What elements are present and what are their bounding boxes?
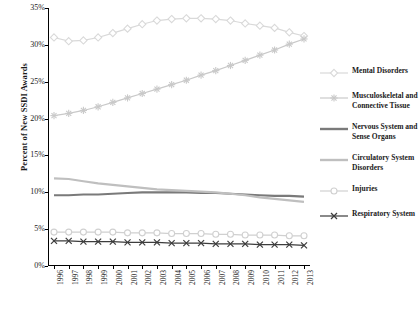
x-tick-mark <box>142 266 143 269</box>
x-tick-label: 2003 <box>160 270 168 285</box>
legend-swatch-asterisk-icon <box>320 92 348 104</box>
data-point-marker-asterisk <box>50 112 57 119</box>
data-point-marker-diamond <box>139 21 146 28</box>
legend-label: Musculoskeletal and Connective Tissue <box>352 91 420 110</box>
data-point-marker-asterisk <box>242 57 249 64</box>
x-tick-mark <box>230 266 231 269</box>
x-tick-mark <box>83 266 84 269</box>
y-tick-mark <box>45 266 48 267</box>
data-point-marker-diamond <box>109 29 116 36</box>
legend-row: Circulatory System Disorders <box>320 153 420 172</box>
legend-row: Nervous System and Sense Organs <box>320 122 420 141</box>
ssdi-awards-line-chart: Percent of New SSDI Awards 0%5%10%15%20%… <box>0 0 420 318</box>
legend-row: Mental Disorders <box>320 66 420 79</box>
x-tick-label: 2005 <box>189 270 197 285</box>
data-point-marker-circle <box>51 229 57 235</box>
data-point-marker-diamond <box>65 38 72 45</box>
data-point-marker-circle <box>125 230 131 236</box>
data-point-marker-asterisk <box>109 99 116 106</box>
y-tick-mark <box>45 119 48 120</box>
data-point-marker-asterisk <box>286 41 293 48</box>
legend-label: Mental Disorders <box>352 66 408 76</box>
legend-row: Respiratory System <box>320 209 420 222</box>
chart-legend: Mental DisordersMusculoskeletal and Conn… <box>320 66 420 234</box>
x-tick-label: 2013 <box>307 270 315 285</box>
x-tick-label: 1998 <box>86 270 94 285</box>
data-point-marker-circle <box>139 230 145 236</box>
data-point-marker-asterisk <box>168 81 175 88</box>
data-point-marker-asterisk <box>197 71 204 78</box>
data-point-marker-diamond <box>124 25 131 32</box>
series-line <box>54 241 304 245</box>
x-tick-label: 1996 <box>57 270 65 285</box>
x-tick-label: 2010 <box>263 270 271 285</box>
x-tick-mark <box>275 266 276 269</box>
legend-swatch-circle-icon <box>320 185 348 197</box>
y-tick-label: 20% <box>30 115 45 123</box>
x-tick-label: 2007 <box>219 270 227 285</box>
data-point-marker-asterisk <box>153 85 160 92</box>
series-line <box>54 18 304 41</box>
legend-label: Nervous System and Sense Organs <box>352 122 420 141</box>
data-point-marker-circle <box>257 232 263 238</box>
y-axis-title: Percent of New SSDI Awards <box>19 17 29 217</box>
y-tick-mark <box>45 8 48 9</box>
y-tick-label: 25% <box>30 78 45 86</box>
x-tick-label: 1997 <box>72 270 80 285</box>
x-tick-mark <box>201 266 202 269</box>
data-point-marker-circle <box>183 231 189 237</box>
legend-label: Circulatory System Disorders <box>352 153 420 172</box>
data-point-marker-diamond <box>242 20 249 27</box>
x-tick-label: 2001 <box>131 270 139 285</box>
data-point-marker-circle <box>198 231 204 237</box>
x-tick-mark <box>128 266 129 269</box>
legend-label: Injuries <box>352 184 377 194</box>
data-point-marker-circle <box>66 229 72 235</box>
x-tick-label: 2004 <box>175 270 183 285</box>
data-point-marker-circle <box>242 232 248 238</box>
data-point-marker-asterisk <box>65 110 72 117</box>
data-point-marker-circle <box>169 231 175 237</box>
y-tick-label: 15% <box>30 151 45 159</box>
data-point-marker-diamond <box>286 29 293 36</box>
data-point-marker-circle <box>213 231 219 237</box>
data-point-marker-asterisk <box>212 67 219 74</box>
data-point-marker-circle <box>272 232 278 238</box>
legend-swatch-x-icon <box>320 210 348 222</box>
data-point-marker-circle <box>154 230 160 236</box>
data-point-marker-asterisk <box>95 103 102 110</box>
data-point-marker-diamond <box>80 37 87 44</box>
legend-swatch-diamond-icon <box>320 67 348 79</box>
data-point-marker-circle <box>110 229 116 235</box>
data-point-marker-asterisk <box>330 94 337 101</box>
x-tick-mark <box>186 266 187 269</box>
y-tick-mark <box>45 82 48 83</box>
y-tick-mark <box>45 45 48 46</box>
plot-area: 0%5%10%15%20%25%30%35% 19961997199819992… <box>48 8 310 266</box>
x-tick-mark <box>260 266 261 269</box>
data-point-marker-circle <box>286 233 292 239</box>
x-tick-label: 2012 <box>292 270 300 285</box>
data-point-marker-diamond <box>197 15 204 22</box>
series-line <box>54 178 304 202</box>
data-point-marker-asterisk <box>256 52 263 59</box>
x-tick-mark <box>113 266 114 269</box>
data-point-marker-circle <box>95 229 101 235</box>
legend-row: Injuries <box>320 184 420 197</box>
x-tick-label: 2008 <box>233 270 241 285</box>
x-tick-mark <box>289 266 290 269</box>
data-point-marker-circle <box>301 233 307 239</box>
data-point-marker-asterisk <box>271 46 278 53</box>
x-tick-label: 2009 <box>248 270 256 285</box>
data-point-marker-diamond <box>227 17 234 24</box>
x-tick-label: 2006 <box>204 270 212 285</box>
data-point-marker-circle <box>80 229 86 235</box>
data-point-marker-asterisk <box>139 90 146 97</box>
series-lines <box>48 8 310 266</box>
y-tick-mark <box>45 155 48 156</box>
legend-swatch-none-icon <box>320 123 348 135</box>
data-point-marker-asterisk <box>227 62 234 69</box>
data-point-marker-asterisk <box>80 107 87 114</box>
y-tick-mark <box>45 229 48 230</box>
data-point-marker-circle <box>331 188 337 194</box>
